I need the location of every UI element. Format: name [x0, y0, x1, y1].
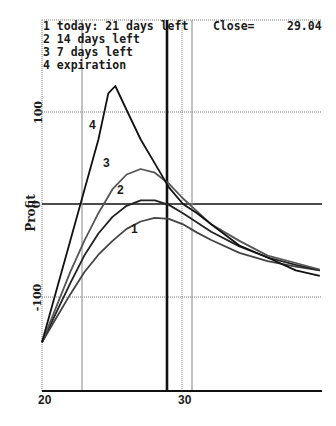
curve-group	[42, 86, 320, 342]
curve-label-2: 2	[117, 183, 124, 197]
x-tick-20: 20	[38, 393, 51, 407]
legend-item-2: 2 14 days left	[43, 32, 140, 46]
legend-item-1: 1 today: 21 days left	[43, 19, 188, 33]
close-label: Close=	[213, 19, 255, 33]
legend-item-4: 4 expiration	[43, 58, 126, 72]
x-tick-30: 30	[178, 393, 191, 407]
legend-item-3: 3 7 days left	[43, 45, 133, 59]
curve-4	[42, 86, 320, 342]
curve-label-1: 1	[131, 222, 138, 236]
curve-1	[42, 218, 320, 342]
y-tick-100: 100	[32, 101, 45, 124]
curve-label-3: 3	[103, 156, 110, 170]
close-value: 29.04	[287, 19, 322, 33]
curve-label-4: 4	[89, 118, 96, 132]
y-tick-0: 0	[30, 201, 43, 209]
curve-2	[42, 200, 320, 342]
y-tick-minus-100: -100	[31, 284, 44, 312]
